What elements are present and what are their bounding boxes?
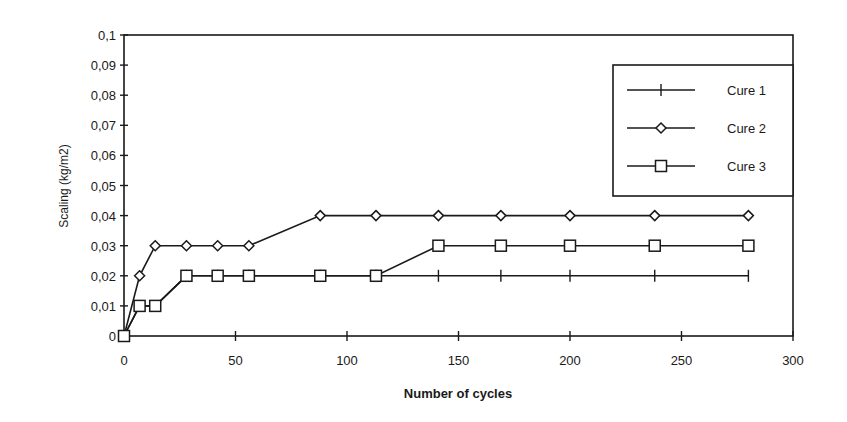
x-tick-label: 200	[559, 353, 581, 368]
diamond-marker-icon	[150, 241, 160, 251]
y-tick-label: 0,04	[91, 209, 116, 224]
square-marker-icon	[370, 270, 381, 281]
y-axis-title: Scaling (kg/m2)	[57, 144, 71, 227]
series-line	[124, 246, 748, 336]
x-tick-label: 100	[336, 353, 358, 368]
legend: Cure 1Cure 2Cure 3	[613, 65, 793, 196]
diamond-marker-icon	[650, 211, 660, 221]
legend-label: Cure 1	[727, 83, 766, 98]
x-tick-label: 0	[120, 353, 127, 368]
scaling-chart: 00,010,020,030,040,050,060,070,080,090,1…	[0, 0, 847, 422]
square-marker-icon	[212, 270, 223, 281]
y-tick-label: 0,06	[91, 148, 116, 163]
y-tick-label: 0	[109, 329, 116, 344]
y-tick-label: 0,05	[91, 179, 116, 194]
diamond-marker-icon	[565, 211, 575, 221]
square-marker-icon	[243, 270, 254, 281]
square-marker-icon	[315, 270, 326, 281]
square-marker-icon	[134, 300, 145, 311]
markers-cure-3	[119, 240, 754, 341]
x-tick-label: 50	[228, 353, 242, 368]
square-marker-icon	[649, 240, 660, 251]
y-tick-label: 0,07	[91, 118, 116, 133]
square-marker-icon	[150, 300, 161, 311]
series-line	[124, 276, 748, 336]
diamond-marker-icon	[244, 241, 254, 251]
y-tick-label: 0,09	[91, 58, 116, 73]
diamond-marker-icon	[213, 241, 223, 251]
x-axis-title: Number of cycles	[404, 386, 512, 401]
diamond-marker-icon	[315, 211, 325, 221]
y-tick-label: 0,02	[91, 269, 116, 284]
diamond-marker-icon	[135, 271, 145, 281]
y-tick-label: 0,08	[91, 88, 116, 103]
x-tick-label: 300	[782, 353, 804, 368]
square-marker-icon	[743, 240, 754, 251]
series-cure-1	[124, 276, 748, 336]
x-tick-label: 150	[448, 353, 470, 368]
square-marker-icon	[433, 240, 444, 251]
y-tick-label: 0,1	[98, 28, 116, 43]
square-marker-icon	[181, 270, 192, 281]
diamond-marker-icon	[496, 211, 506, 221]
legend-label: Cure 2	[727, 121, 766, 136]
square-marker-icon	[495, 240, 506, 251]
x-tick-label: 250	[671, 353, 693, 368]
diamond-marker-icon	[433, 211, 443, 221]
diamond-marker-icon	[181, 241, 191, 251]
series-cure-3	[124, 246, 748, 336]
diamond-marker-icon	[743, 211, 753, 221]
square-marker-icon	[565, 240, 576, 251]
square-marker-icon	[656, 161, 667, 172]
square-marker-icon	[119, 331, 130, 342]
y-tick-label: 0,03	[91, 239, 116, 254]
y-axis: 00,010,020,030,040,050,060,070,080,090,1	[91, 28, 128, 344]
series-layer	[119, 211, 754, 342]
diamond-marker-icon	[371, 211, 381, 221]
legend-label: Cure 3	[727, 159, 766, 174]
y-tick-label: 0,01	[91, 299, 116, 314]
